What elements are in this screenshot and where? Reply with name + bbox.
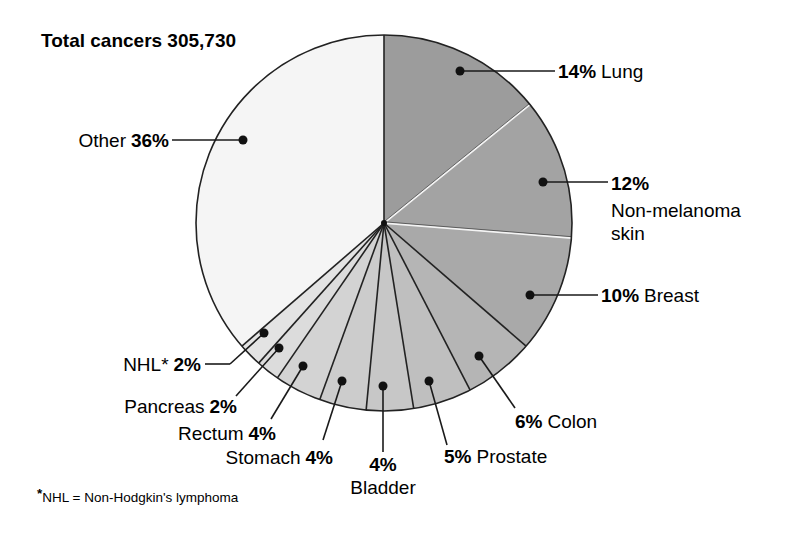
label-other: Other36% bbox=[78, 130, 169, 151]
label-lung: 14%Lung bbox=[558, 61, 643, 82]
label-bladder-pct: 4% bbox=[369, 454, 397, 475]
label-pancreas: Pancreas2% bbox=[124, 396, 237, 417]
pie-center bbox=[381, 220, 387, 226]
footnote: *NHL = Non-Hodgkin's lymphoma bbox=[37, 486, 239, 505]
label-prostate: 5%Prostate bbox=[444, 446, 547, 467]
label-nhl: NHL*2% bbox=[123, 354, 201, 375]
label-skin-name-2: skin bbox=[611, 223, 645, 244]
label-skin-name-1: Non-melanoma bbox=[611, 200, 741, 221]
chart-title: Total cancers 305,730 bbox=[41, 30, 236, 51]
label-skin-pct: 12% bbox=[611, 173, 649, 194]
label-colon: 6%Colon bbox=[515, 411, 597, 432]
cancer-pie-chart: Total cancers 305,730 14%Lung 12% Non-me… bbox=[0, 0, 790, 533]
label-stomach: Stomach4% bbox=[226, 447, 334, 468]
label-bladder-name: Bladder bbox=[350, 477, 416, 498]
label-breast: 10%Breast bbox=[601, 285, 700, 306]
label-rectum: Rectum4% bbox=[178, 423, 276, 444]
